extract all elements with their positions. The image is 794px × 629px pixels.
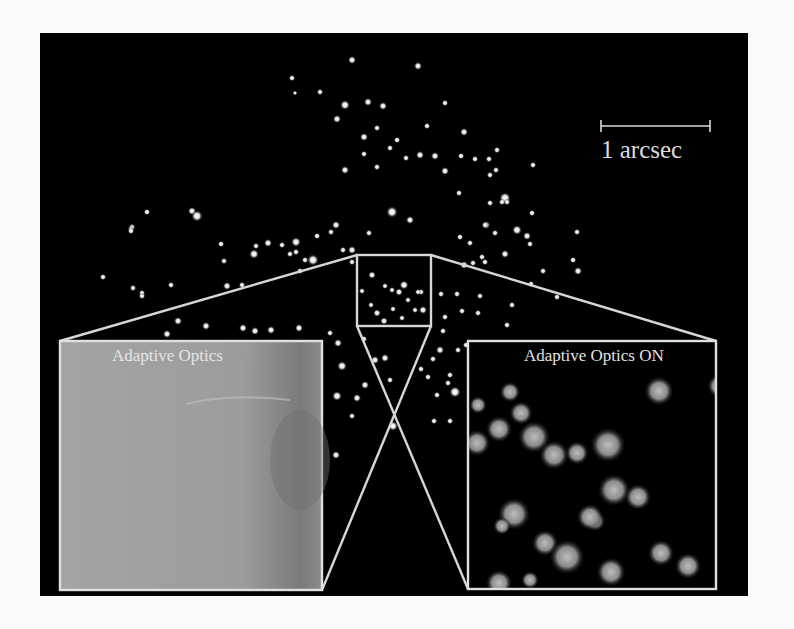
star — [523, 232, 532, 241]
star-field — [0, 0, 794, 629]
star — [332, 221, 341, 230]
star — [675, 553, 702, 580]
star — [590, 427, 626, 463]
star — [625, 484, 652, 511]
inset-ao-on — [468, 341, 716, 589]
star — [527, 241, 534, 248]
star — [442, 314, 449, 321]
star — [482, 222, 489, 229]
star — [395, 288, 403, 296]
star — [424, 123, 431, 130]
star — [293, 249, 300, 256]
star — [394, 137, 401, 144]
star — [512, 225, 522, 235]
inset-on-title: Adaptive Optics ON — [524, 346, 664, 366]
star — [454, 291, 461, 298]
star — [549, 539, 585, 575]
star — [414, 62, 423, 71]
star — [436, 346, 445, 355]
star — [434, 392, 441, 399]
star — [223, 282, 232, 291]
star — [500, 382, 521, 403]
star — [128, 228, 135, 235]
star — [317, 89, 324, 96]
star — [389, 287, 395, 293]
star — [487, 200, 494, 207]
star — [456, 190, 463, 197]
star — [328, 229, 335, 236]
star — [570, 257, 577, 264]
star — [348, 246, 357, 255]
star — [100, 274, 107, 281]
star — [295, 324, 304, 333]
star — [360, 133, 369, 142]
star — [291, 237, 301, 247]
star — [539, 440, 569, 470]
star — [596, 557, 626, 587]
star — [477, 293, 484, 300]
star — [387, 145, 394, 152]
star — [374, 164, 381, 171]
star — [438, 291, 445, 298]
star — [442, 100, 449, 107]
star — [441, 167, 450, 176]
star — [368, 271, 376, 279]
star — [430, 356, 437, 363]
inset-off-prefix: Adaptive Optics — [112, 346, 227, 365]
inset-off-title: Adaptive Optics OFF — [112, 346, 258, 366]
star — [239, 324, 248, 333]
star — [469, 396, 487, 414]
star — [486, 156, 493, 163]
star — [337, 361, 347, 371]
star — [218, 241, 225, 248]
star — [406, 216, 415, 225]
star — [509, 302, 516, 309]
star — [144, 209, 151, 216]
star — [380, 317, 388, 325]
star — [249, 249, 259, 259]
star — [521, 571, 539, 589]
star — [368, 302, 374, 308]
star — [379, 102, 388, 111]
star — [307, 254, 319, 266]
star — [374, 125, 381, 132]
star — [390, 306, 396, 312]
star — [412, 307, 418, 313]
star — [501, 250, 510, 259]
inset-on-state: ON — [639, 346, 664, 365]
star — [221, 258, 228, 265]
star — [416, 151, 425, 160]
star — [314, 233, 321, 240]
inset-off-shadow — [270, 410, 330, 510]
star — [482, 259, 489, 266]
star — [341, 166, 350, 175]
star — [264, 239, 273, 248]
star — [574, 229, 581, 236]
star — [707, 374, 731, 398]
star — [419, 306, 428, 315]
star — [431, 152, 440, 161]
star — [459, 308, 466, 315]
star — [447, 372, 454, 379]
star — [492, 230, 499, 237]
star — [418, 366, 425, 373]
inset-on-prefix: Adaptive Optics — [524, 346, 639, 365]
star — [493, 517, 511, 535]
star — [457, 234, 464, 241]
star — [361, 151, 368, 158]
star — [287, 251, 294, 258]
star — [381, 354, 390, 363]
star — [353, 394, 362, 403]
star — [251, 327, 260, 336]
star — [504, 322, 511, 329]
star — [168, 282, 175, 289]
star — [458, 153, 465, 160]
star — [467, 240, 474, 247]
star — [302, 257, 309, 264]
star — [382, 283, 388, 289]
star — [191, 210, 203, 222]
star — [574, 267, 583, 276]
star — [529, 210, 536, 217]
inset-off-state: OFF — [227, 346, 258, 365]
star — [387, 377, 394, 384]
